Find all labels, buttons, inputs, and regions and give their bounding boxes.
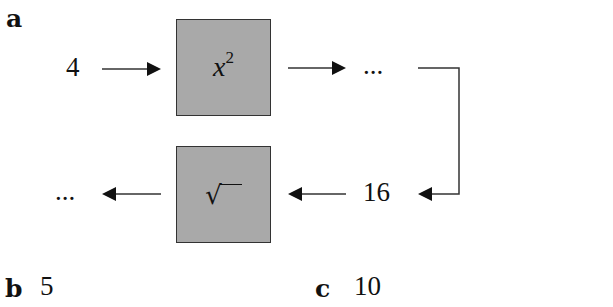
intermediate-value: 16 xyxy=(363,177,390,208)
square-output-ellipsis: ... xyxy=(363,50,383,81)
input-value: 4 xyxy=(66,52,80,83)
square-operation-box: x2 xyxy=(176,19,271,116)
square-operation: x2 xyxy=(213,51,234,83)
panel-label-a: a xyxy=(6,4,22,33)
answer-b: 5 xyxy=(40,271,54,302)
answer-c: 10 xyxy=(354,271,381,302)
feedback-connector xyxy=(418,68,459,194)
panel-label-b: b xyxy=(5,274,22,303)
diagram-arrows xyxy=(0,0,613,307)
sqrt-operation-box: √ xyxy=(176,146,271,243)
panel-label-c: c xyxy=(315,274,330,303)
sqrt-output-ellipsis: ... xyxy=(55,176,75,207)
sqrt-operation: √ xyxy=(205,180,242,210)
